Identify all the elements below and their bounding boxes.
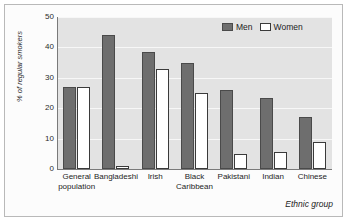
plot-area	[57, 17, 332, 169]
gridline-50	[57, 17, 332, 18]
y-tick-label-40: 40	[36, 43, 54, 51]
y-axis-line	[57, 17, 58, 169]
bar-men-6	[299, 117, 312, 169]
bar-men-3	[181, 63, 194, 169]
bar-women-4	[234, 154, 247, 169]
chart-legend: Men Women	[222, 22, 303, 32]
legend-label-men: Men	[236, 22, 253, 32]
x-axis-title: Ethnic group	[285, 199, 333, 209]
legend-swatch-women-icon	[260, 23, 271, 31]
x-axis-line	[57, 169, 332, 170]
x-axis-tick-labels: GeneralpopulationBangladeshiIrishBlackCa…	[57, 172, 332, 196]
y-axis-title: % of regular smokers	[15, 17, 24, 117]
bar-men-1	[102, 35, 115, 169]
bar-men-0	[63, 87, 76, 169]
y-axis-ticks: 50 40 30 20 10 0	[33, 17, 54, 169]
bar-men-5	[260, 98, 273, 169]
bar-men-2	[142, 52, 155, 169]
y-tick-label-10: 10	[36, 135, 54, 143]
y-tick-label-50: 50	[36, 13, 54, 21]
legend-item-men[interactable]: Men	[222, 22, 253, 32]
gridline-40	[57, 47, 332, 48]
y-tick-label-0: 0	[36, 165, 54, 173]
legend-item-women[interactable]: Women	[260, 22, 303, 32]
legend-label-women: Women	[274, 22, 303, 32]
bar-women-6	[313, 142, 326, 169]
bar-women-2	[156, 69, 169, 169]
bar-women-5	[274, 152, 287, 169]
y-tick-label-20: 20	[36, 104, 54, 112]
bar-women-0	[77, 87, 90, 169]
gridline-30	[57, 78, 332, 79]
bar-men-4	[220, 90, 233, 169]
chart-figure: 50 40 30 20 10 0 % of regular smokers Ge…	[0, 0, 349, 223]
legend-swatch-men-icon	[222, 23, 233, 31]
bar-women-3	[195, 93, 208, 169]
y-tick-label-30: 30	[36, 74, 54, 82]
x-tick-label-6: Chinese	[289, 172, 336, 182]
